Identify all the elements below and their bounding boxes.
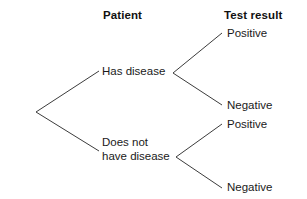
column-header-patient: Patient xyxy=(103,9,142,21)
node-label-has-disease: Has disease xyxy=(102,65,165,79)
tree-diagram-canvas: Patient Test result Has disease Does not… xyxy=(0,0,307,199)
node-label-no-disease: Does not have disease xyxy=(102,136,170,163)
leaf-label-positive-has-disease: Positive xyxy=(227,27,267,41)
node-label-no-disease-line2: have disease xyxy=(102,150,170,164)
node-label-no-disease-line1: Does not xyxy=(102,136,170,150)
branch-no-disease-to-negative xyxy=(176,157,222,188)
branch-has-disease-to-positive xyxy=(173,33,222,73)
branch-root-to-no-disease xyxy=(36,112,99,151)
leaf-label-negative-has-disease: Negative xyxy=(227,99,272,113)
branch-has-disease-to-negative xyxy=(173,73,222,105)
branch-root-to-has-disease xyxy=(36,71,99,112)
leaf-label-negative-no-disease: Negative xyxy=(227,181,272,195)
column-header-test-result: Test result xyxy=(224,9,282,21)
branch-no-disease-to-positive xyxy=(176,124,222,157)
leaf-label-positive-no-disease: Positive xyxy=(227,118,267,132)
